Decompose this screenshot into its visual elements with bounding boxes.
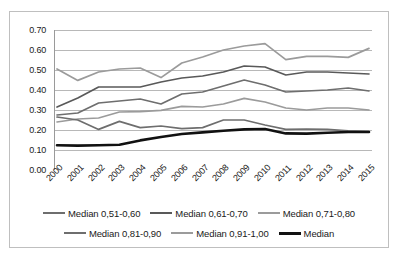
legend-label: Median 0,51-0,60 [68,208,140,219]
legend-label: Median 0,61-0,70 [175,208,247,219]
legend-item[interactable]: Median 0,61-0,70 [150,208,247,219]
legend-color-swatch [171,232,193,234]
legend-row: Median 0,51-0,60Median 0,61-0,70Median 0… [10,203,388,223]
series-line [57,80,369,115]
series-line [57,129,369,146]
legend-item[interactable]: Median [279,228,335,239]
chart-card: 0.700.600.500.400.300.200.100.00 2000200… [9,11,389,248]
y-axis-tick-label: 0.50 [16,66,46,75]
legend-color-swatch [150,212,172,214]
chart-legend: Median 0,51-0,60Median 0,61-0,70Median 0… [10,203,388,243]
legend-label: Median 0,81-0,90 [89,228,161,239]
y-axis-tick-label: 0.70 [16,26,46,35]
legend-label: Median 0,71-0,80 [283,208,355,219]
y-axis-tick-label: 0.20 [16,126,46,135]
legend-item[interactable]: Median 0,91-1,00 [171,228,268,239]
legend-label: Median 0,91-1,00 [196,228,268,239]
legend-row: Median 0,81-0,90Median 0,91-1,00Median [10,223,388,243]
y-axis-tick-label: 0.30 [16,106,46,115]
y-axis-tick-label: 0.60 [16,46,46,55]
legend-color-swatch [258,212,280,214]
series-lines [54,30,372,170]
legend-color-swatch [279,232,301,235]
series-line [57,44,369,81]
legend-item[interactable]: Median 0,71-0,80 [258,208,355,219]
y-axis-tick-label: 0.40 [16,86,46,95]
legend-color-swatch [64,232,86,234]
y-axis-tick-label: 0.00 [16,166,46,175]
series-line [57,66,369,107]
y-axis-tick-label: 0.10 [16,146,46,155]
axis-area [54,30,372,170]
legend-label: Median [304,228,335,239]
series-line [57,117,369,132]
x-axis-tick-label: 2000 [44,162,65,183]
legend-color-swatch [43,212,65,214]
legend-item[interactable]: Median 0,81-0,90 [64,228,161,239]
plot-area: 0.700.600.500.400.300.200.100.00 2000200… [10,12,388,164]
legend-item[interactable]: Median 0,51-0,60 [43,208,140,219]
